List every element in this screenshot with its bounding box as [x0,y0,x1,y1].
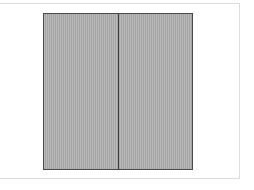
panel-leaf-right[interactable]: Right panel [118,14,192,169]
panel-leaf-left[interactable]: Left panel [44,14,118,169]
center-divider-label: Center mullion [117,13,118,14]
center-divider[interactable]: Center mullion [118,14,119,169]
screenshot-canvas: Drawing frame Two-panel hatched rectangl… [0,0,254,190]
panel-leaf-left-label: Left panel [43,13,44,14]
two-panel-figure[interactable]: Two-panel hatched rectangle Left panel R… [43,13,193,170]
